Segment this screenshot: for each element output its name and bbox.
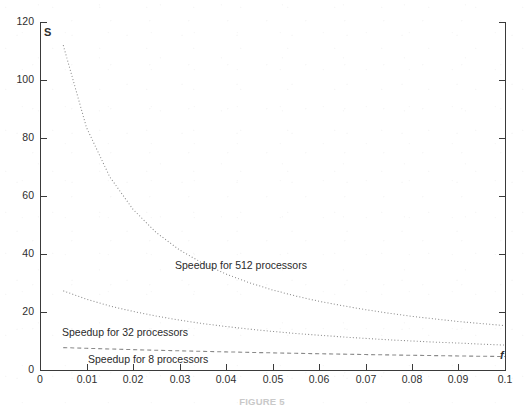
- figure-caption: FIGURE 5: [0, 396, 524, 408]
- chart-curves: [0, 0, 524, 408]
- annotation-speedup-32: Speedup for 32 processors: [62, 326, 188, 338]
- annotation-speedup-512: Speedup for 512 processors: [175, 259, 307, 271]
- annotation-speedup-8: Speedup for 8 processors: [88, 353, 208, 365]
- figure-container: S f 02040608010012000.010.020.030.040.05…: [0, 0, 524, 408]
- series-path-speedup-for-512-processors: [63, 45, 505, 325]
